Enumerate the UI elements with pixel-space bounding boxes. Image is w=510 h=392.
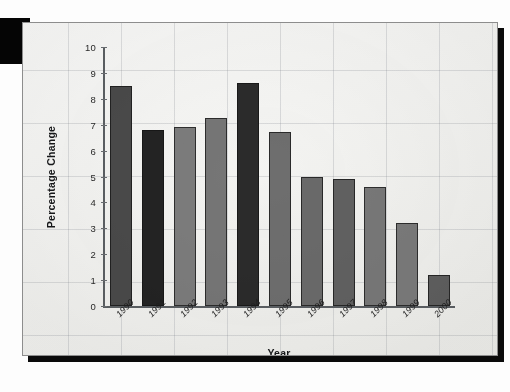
bar-1997[interactable] bbox=[333, 179, 355, 306]
bar-rect bbox=[110, 86, 132, 306]
bar-1994[interactable] bbox=[237, 83, 259, 306]
y-tick-label: 2 bbox=[91, 249, 96, 260]
bar-1993[interactable] bbox=[205, 118, 227, 306]
bar-rect bbox=[205, 118, 227, 306]
bar-rect bbox=[333, 179, 355, 306]
bar-rect bbox=[237, 83, 259, 306]
y-tick-label: 1 bbox=[91, 275, 96, 286]
bar-series: 1990199119921993199419951996199719981999… bbox=[105, 47, 455, 308]
bar-rect bbox=[396, 223, 418, 306]
y-axis-title: Percentage Change bbox=[45, 126, 57, 228]
screenshot-root: 012345678910 Percentage Change 199019911… bbox=[0, 0, 510, 392]
y-tick-label: 5 bbox=[91, 171, 96, 182]
y-tick-label: 9 bbox=[91, 67, 96, 78]
bar-1996[interactable] bbox=[301, 177, 323, 307]
bar-chart-figure: 012345678910 Percentage Change 199019911… bbox=[22, 22, 498, 356]
y-tick-label: 0 bbox=[91, 301, 96, 312]
y-tick-label: 10 bbox=[85, 42, 96, 53]
y-tick-label: 7 bbox=[91, 119, 96, 130]
y-tick-label: 4 bbox=[91, 197, 96, 208]
x-axis-title: Year bbox=[267, 347, 290, 356]
bar-1998[interactable] bbox=[364, 187, 386, 306]
bar-1992[interactable] bbox=[174, 127, 196, 306]
plot-area: 012345678910 Percentage Change 199019911… bbox=[103, 47, 455, 331]
bar-1991[interactable] bbox=[142, 130, 164, 306]
bar-rect bbox=[269, 132, 291, 306]
y-tick-label: 3 bbox=[91, 223, 96, 234]
y-tick-label: 6 bbox=[91, 145, 96, 156]
bar-1990[interactable] bbox=[110, 86, 132, 306]
bar-rect bbox=[174, 127, 196, 306]
bar-1999[interactable] bbox=[396, 223, 418, 306]
bar-1995[interactable] bbox=[269, 132, 291, 306]
bar-rect bbox=[301, 177, 323, 307]
y-tick-label: 8 bbox=[91, 93, 96, 104]
bar-rect bbox=[364, 187, 386, 306]
bar-rect bbox=[142, 130, 164, 306]
